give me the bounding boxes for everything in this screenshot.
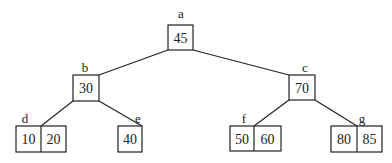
edge-c-f <box>254 100 289 126</box>
node-label: b <box>82 60 89 75</box>
node-key: 30 <box>79 81 93 96</box>
node-label: e <box>135 111 141 126</box>
node-c: c 70 <box>289 60 315 101</box>
edge-a-b <box>99 50 168 75</box>
edge-b-d <box>41 101 73 126</box>
node-a: a 45 <box>168 6 193 51</box>
node-d: d 10 20 <box>16 111 66 153</box>
node-key: 20 <box>47 132 61 147</box>
tree-svg: a 45 b 30 c 70 d 10 20 e 40 <box>0 0 392 163</box>
node-key: 45 <box>174 31 188 46</box>
node-e: e 40 <box>118 111 142 153</box>
node-key: 80 <box>337 132 351 147</box>
node-b: b 30 <box>73 60 99 102</box>
node-f: f 50 60 <box>230 111 281 152</box>
node-key: 40 <box>123 132 137 147</box>
tree-diagram: a 45 b 30 c 70 d 10 20 e 40 <box>0 0 392 163</box>
node-key: 50 <box>235 132 249 147</box>
node-key: 70 <box>295 81 309 96</box>
node-key: 60 <box>261 132 275 147</box>
node-g: g 80 85 <box>331 111 382 153</box>
edge-c-g <box>315 100 357 126</box>
node-label: d <box>22 111 29 126</box>
node-label: f <box>242 111 247 126</box>
node-key: 85 <box>363 132 377 147</box>
node-label: g <box>359 111 366 126</box>
edge-a-c <box>193 50 289 75</box>
node-label: c <box>302 60 308 75</box>
node-label: a <box>178 6 184 21</box>
node-key: 10 <box>22 132 36 147</box>
